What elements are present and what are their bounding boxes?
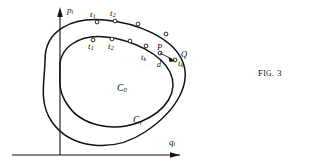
outer-curve-markers — [95, 19, 168, 36]
x-axis-arrowhead — [170, 152, 180, 158]
outer-marker — [136, 22, 140, 26]
curve-c-zero — [60, 37, 173, 127]
figure-3-container: pi qi t1 t2 t1 t2 P tk Q tk d C0 Cγ FIG.… — [0, 0, 317, 168]
point-label-q: Q — [181, 50, 187, 59]
y-axis-label: pi — [67, 6, 73, 15]
inner-marker — [128, 39, 132, 43]
outer-marker — [95, 20, 99, 24]
curve-label-c0: C0 — [117, 84, 127, 94]
outer-label-t2: t2 — [110, 9, 116, 18]
figure-drawing — [0, 0, 317, 168]
axes-group — [12, 7, 180, 158]
y-axis-arrowhead — [57, 7, 63, 17]
inner-marker — [144, 44, 148, 48]
outer-marker — [164, 32, 168, 36]
point-label-p: P — [157, 43, 162, 52]
point-label-tk-outer: tk — [178, 59, 183, 69]
x-axis-label: qi — [169, 138, 175, 147]
curve-label-cgamma: Cγ — [133, 116, 142, 126]
curve-c-zero-path — [60, 37, 173, 127]
inner-label-t2: t2 — [108, 42, 114, 51]
outer-label-t1: t1 — [90, 10, 96, 19]
distance-label-d: d — [157, 61, 161, 69]
point-label-tk: tk — [141, 53, 146, 63]
distance-d-arrow-shaft — [160, 53, 172, 59]
outer-marker — [113, 19, 117, 23]
inner-label-t1: t1 — [88, 42, 94, 51]
figure-caption: FIG. 3 — [258, 68, 282, 78]
